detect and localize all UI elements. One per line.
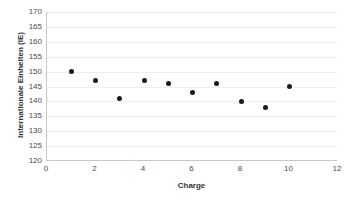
gridline — [47, 12, 337, 13]
y-tick-label: 140 — [18, 97, 42, 105]
y-tick-label: 150 — [18, 68, 42, 76]
x-tick-label: 10 — [274, 164, 304, 174]
x-tick-label: 0 — [31, 164, 61, 174]
data-point — [287, 84, 292, 89]
x-tick-label: 6 — [177, 164, 207, 174]
gridline — [47, 42, 337, 43]
data-point — [214, 81, 219, 86]
gridline — [47, 87, 337, 88]
y-tick-label: 130 — [18, 127, 42, 135]
scatter-chart: Internationale Einheiten (IE) 1201251301… — [0, 0, 352, 205]
x-axis-title: Charge — [46, 181, 337, 190]
y-axis-tick-labels: 120125130135140145150155160165170 — [18, 12, 42, 161]
gridline — [47, 27, 337, 28]
x-axis-tick-labels: 024681012 — [46, 164, 337, 176]
data-point — [239, 99, 244, 104]
data-point — [263, 105, 268, 110]
gridline — [47, 72, 337, 73]
gridline — [47, 146, 337, 147]
data-point — [93, 78, 98, 83]
y-tick-label: 170 — [18, 8, 42, 16]
x-tick-label: 2 — [80, 164, 110, 174]
data-point — [166, 81, 171, 86]
data-point — [142, 78, 147, 83]
x-tick-label: 12 — [322, 164, 352, 174]
gridline — [47, 57, 337, 58]
y-tick-label: 135 — [18, 112, 42, 120]
data-point — [69, 69, 74, 74]
y-tick-label: 125 — [18, 142, 42, 150]
y-tick-label: 160 — [18, 38, 42, 46]
y-tick-label: 155 — [18, 53, 42, 61]
x-tick-label: 8 — [225, 164, 255, 174]
y-tick-label: 145 — [18, 83, 42, 91]
plot-area — [46, 12, 337, 161]
x-tick-label: 4 — [128, 164, 158, 174]
gridline — [47, 116, 337, 117]
gridline — [47, 101, 337, 102]
data-point — [190, 90, 195, 95]
gridline — [47, 131, 337, 132]
y-tick-label: 165 — [18, 23, 42, 31]
